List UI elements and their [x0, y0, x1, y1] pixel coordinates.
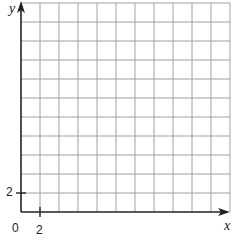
x-tick-label: 2	[36, 224, 43, 236]
x-axis-label: x	[224, 219, 230, 233]
y-axis-label: y	[9, 2, 15, 16]
grid-lines	[21, 3, 230, 212]
coordinate-grid	[0, 0, 242, 243]
y-tick-label: 2	[6, 186, 13, 198]
origin-label: 0	[12, 222, 19, 234]
axes	[16, 1, 230, 217]
